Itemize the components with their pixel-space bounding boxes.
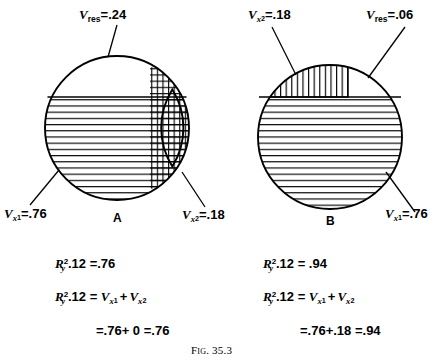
panel-a-equation-1: R2y.12 =.76 [55,256,115,273]
panel-a-vres-leader [108,25,117,57]
panel-b-vres-label: Vres=.06 [366,7,413,24]
panel-a-vx2-label: Vx2=.18 [182,207,225,224]
panel-a-equation-3: =.76+ 0 =.76 [96,323,169,338]
panel-b-equation-2: R2y.12 = Vx1+Vx2 [263,289,354,306]
panel-b-vx2-label: Vx2=.18 [248,7,291,24]
panel-a-letter: A [113,211,122,225]
panel-a-graphic [30,25,230,220]
panel-b-equation-1: R2y.12 = .94 [263,256,327,273]
panel-b-vx2-leader [272,27,296,75]
panel-a-vx2-leader [182,172,205,207]
panel-b-vx1-label: Vx1=.76 [385,206,428,223]
panel-b-vres-leader [368,27,405,78]
panel-b-letter: B [326,214,335,228]
panel-b-vx2-region [250,63,348,97]
panel-a-equation-2: R2y.12 = Vx1+Vx2 [55,289,146,306]
panel-b-equation-3: =.76+.18 =.94 [300,323,381,338]
panel-a-vres-label: Vres=.24 [79,7,126,24]
figure-canvas [0,0,443,362]
panel-a-vx1-label: Vx1=.76 [4,206,47,223]
panel-b-graphic [250,27,415,217]
figure-caption: Fig. 35.3 [191,344,232,356]
panel-a-vx1-leader [30,170,59,205]
panel-b-vx1-region [250,97,415,217]
